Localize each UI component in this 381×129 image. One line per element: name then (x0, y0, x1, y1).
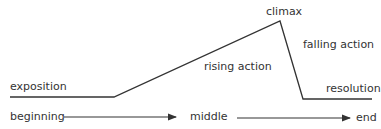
label-middle: middle (190, 111, 228, 123)
label-end: end (356, 112, 377, 124)
label-beginning: beginning (10, 111, 65, 123)
label-rising-action: rising action (204, 61, 272, 73)
label-resolution: resolution (326, 83, 381, 95)
label-falling-action: falling action (303, 39, 374, 51)
label-exposition: exposition (10, 81, 67, 93)
label-climax: climax (266, 6, 302, 18)
